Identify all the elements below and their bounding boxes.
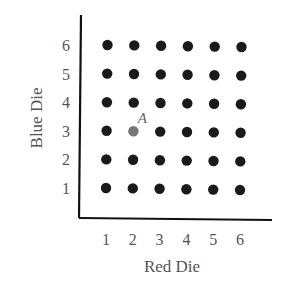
data-point bbox=[155, 98, 165, 108]
data-point bbox=[209, 99, 219, 109]
y-tick-label: 4 bbox=[62, 94, 70, 111]
data-point bbox=[156, 69, 166, 79]
data-point bbox=[101, 183, 111, 193]
data-point bbox=[101, 126, 111, 136]
dice-outcome-chart: 123456 123456 A Red Die Blue Die bbox=[0, 0, 290, 288]
x-tick-labels: 123456 bbox=[102, 231, 244, 248]
y-tick-label: 6 bbox=[62, 37, 70, 54]
data-point bbox=[208, 156, 218, 166]
data-point bbox=[128, 155, 138, 165]
data-point bbox=[154, 184, 164, 194]
x-axis bbox=[79, 218, 272, 220]
data-point bbox=[182, 127, 192, 137]
data-point bbox=[236, 42, 246, 52]
data-point bbox=[102, 68, 112, 78]
data-point bbox=[101, 154, 111, 164]
data-point bbox=[236, 70, 246, 80]
x-axis-label: Red Die bbox=[144, 257, 200, 276]
y-tick-label: 1 bbox=[62, 180, 70, 197]
data-point bbox=[235, 128, 245, 138]
data-point bbox=[182, 98, 192, 108]
data-point bbox=[182, 155, 192, 165]
x-tick-label: 4 bbox=[182, 231, 190, 248]
data-point bbox=[182, 70, 192, 80]
annotation-label: A bbox=[137, 110, 148, 126]
data-points bbox=[101, 40, 247, 195]
data-point bbox=[129, 40, 139, 50]
point-a bbox=[128, 126, 138, 136]
x-tick-label: 2 bbox=[129, 231, 137, 248]
y-tick-label: 3 bbox=[62, 123, 70, 140]
x-tick-label: 6 bbox=[236, 231, 244, 248]
y-tick-labels: 123456 bbox=[62, 37, 70, 197]
data-point bbox=[156, 41, 166, 51]
x-tick-label: 5 bbox=[209, 231, 217, 248]
data-point bbox=[209, 70, 219, 80]
data-point bbox=[235, 156, 245, 166]
y-axis-label: Blue Die bbox=[27, 88, 46, 149]
data-point bbox=[208, 184, 218, 194]
data-point bbox=[181, 184, 191, 194]
x-tick-label: 3 bbox=[156, 231, 164, 248]
data-point bbox=[102, 40, 112, 50]
data-point bbox=[236, 99, 246, 109]
data-point bbox=[183, 41, 193, 51]
y-axis bbox=[79, 15, 81, 218]
data-point bbox=[155, 155, 165, 165]
data-point bbox=[155, 126, 165, 136]
x-tick-label: 1 bbox=[102, 231, 110, 248]
data-point bbox=[209, 127, 219, 137]
data-point bbox=[210, 41, 220, 51]
y-tick-label: 2 bbox=[62, 151, 70, 168]
data-point bbox=[102, 97, 112, 107]
y-tick-label: 5 bbox=[62, 66, 70, 83]
data-point bbox=[129, 69, 139, 79]
data-point bbox=[129, 97, 139, 107]
data-point bbox=[128, 183, 138, 193]
data-point bbox=[235, 185, 245, 195]
